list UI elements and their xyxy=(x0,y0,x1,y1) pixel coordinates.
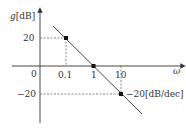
point-0.1 xyxy=(64,36,68,40)
x-tick-0.1: 0.1 xyxy=(58,70,72,80)
x-tick-10: 10 xyxy=(115,70,127,80)
chart-canvas: g[dB] 20 −20 0 0.1 1 10 ω −20[dB/dec] xyxy=(0,0,186,128)
point-1 xyxy=(92,64,96,68)
y-tick-minus-20: −20 xyxy=(17,89,36,99)
y-axis-label: g[dB] xyxy=(10,11,35,21)
y-tick-20: 20 xyxy=(23,33,35,43)
slope-annotation: −20[dB/dec] xyxy=(126,89,184,99)
x-axis-label: ω xyxy=(173,66,181,76)
bode-gain-chart: g[dB] 20 −20 0 0.1 1 10 ω −20[dB/dec] xyxy=(0,0,186,128)
origin-label: 0 xyxy=(31,69,37,79)
x-tick-1: 1 xyxy=(91,70,97,80)
point-10 xyxy=(119,92,123,96)
